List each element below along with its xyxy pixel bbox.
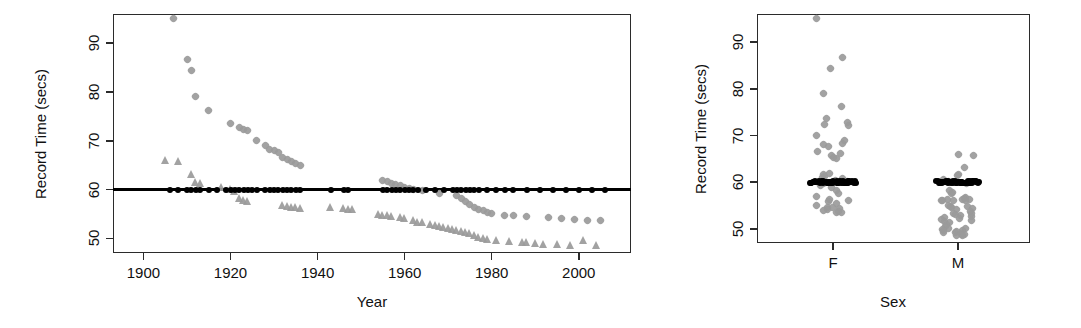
left-point-1-1 [174, 157, 182, 165]
left-point-1-28 [418, 218, 426, 226]
left-point-2-47 [484, 187, 490, 193]
left-point-2-27 [345, 187, 351, 193]
left-y-tick-label-60: 60 [85, 181, 102, 198]
right-x-tick-label-F: F [828, 254, 837, 271]
left-y-tick-label-80: 80 [85, 84, 102, 101]
left-point-0-39 [509, 211, 519, 221]
left-point-1-46 [522, 238, 530, 246]
left-point-2-6 [206, 187, 212, 193]
left-x-tick-label-1960: 1960 [388, 264, 421, 281]
left-point-1-43 [492, 236, 500, 244]
left-y-tick-label-70: 70 [85, 132, 102, 149]
left-y-tick-80 [106, 91, 113, 93]
left-point-0-45 [596, 216, 606, 226]
left-point-1-44 [505, 237, 513, 245]
right-point-F-3 [818, 88, 828, 98]
left-point-2-24 [297, 187, 303, 193]
left-point-0-2 [186, 66, 196, 76]
left-y-tick-50 [106, 238, 113, 240]
left-point-2-56 [589, 187, 595, 193]
left-point-0-38 [500, 211, 510, 221]
left-point-1-47 [531, 239, 539, 247]
figure-root: Record Time (secs) 5060708090 1900192019… [0, 0, 1081, 328]
left-point-0-3 [191, 92, 201, 102]
left-point-1-25 [400, 214, 408, 222]
right-point-M-1 [968, 150, 978, 160]
right-y-axis-title: Record Time (secs) [692, 64, 709, 194]
left-x-tick-label-1940: 1940 [301, 264, 334, 281]
left-point-2-38 [432, 187, 438, 193]
left-x-tick-1980 [491, 253, 493, 260]
left-point-2-0 [167, 187, 173, 193]
right-point-F-1 [837, 53, 847, 63]
left-point-0-41 [543, 213, 553, 223]
left-point-0-40 [522, 212, 532, 222]
left-point-1-2 [187, 170, 195, 178]
left-point-2-37 [423, 187, 429, 193]
right-y-tick-label-50: 50 [729, 221, 746, 238]
right-point-F-4 [836, 102, 846, 112]
left-y-tick-label-50: 50 [85, 230, 102, 247]
right-y-tick-70 [750, 135, 757, 137]
right-y-tick-60 [750, 181, 757, 183]
left-y-tick-label-90: 90 [85, 35, 102, 52]
left-plot-area [113, 14, 631, 253]
left-x-tick-label-2000: 2000 [562, 264, 595, 281]
left-point-2-46 [476, 187, 482, 193]
right-y-tick-label-90: 90 [729, 34, 746, 51]
left-point-2-49 [502, 187, 508, 193]
left-point-0-0 [169, 14, 179, 24]
left-x-axis-title: Year [357, 293, 387, 310]
left-point-1-15 [296, 204, 304, 212]
left-x-tick-label-1920: 1920 [214, 264, 247, 281]
left-point-1-4 [196, 179, 204, 187]
left-x-tick-label-1900: 1900 [127, 264, 160, 281]
left-point-1-23 [387, 212, 395, 220]
left-x-tick-2000 [578, 253, 580, 260]
left-point-2-7 [214, 187, 220, 193]
right-y-tick-50 [750, 228, 757, 230]
left-point-2-5 [197, 187, 203, 193]
left-point-0-4 [204, 106, 214, 116]
right-x-tick-M [957, 243, 959, 250]
left-point-2-15 [254, 187, 260, 193]
left-point-2-53 [550, 187, 556, 193]
left-y-tick-70 [106, 140, 113, 142]
right-plot-area [757, 14, 1030, 243]
left-point-2-48 [493, 187, 499, 193]
left-point-2-25 [328, 187, 334, 193]
left-point-1-10 [243, 197, 251, 205]
right-point-M-2 [959, 162, 969, 172]
left-point-1-16 [326, 203, 334, 211]
left-point-2-50 [510, 187, 516, 193]
right-point-F-8 [844, 120, 854, 130]
right-point-F-0 [811, 14, 821, 24]
left-point-0-5 [226, 118, 236, 128]
left-y-axis-title: Record Time (secs) [32, 69, 49, 199]
left-x-tick-1960 [404, 253, 406, 260]
left-point-2-51 [524, 187, 530, 193]
right-y-tick-label-80: 80 [729, 80, 746, 97]
left-y-tick-60 [106, 189, 113, 191]
right-x-tick-F [832, 243, 834, 250]
right-y-tick-90 [750, 41, 757, 43]
left-point-0-1 [182, 55, 192, 65]
left-x-tick-label-1980: 1980 [475, 264, 508, 281]
left-point-1-50 [566, 241, 574, 249]
left-point-1-51 [579, 236, 587, 244]
left-point-2-54 [563, 187, 569, 193]
left-point-2-39 [441, 187, 447, 193]
left-point-1-42 [483, 235, 491, 243]
right-point-F-9 [812, 131, 822, 141]
left-point-0-43 [569, 215, 579, 225]
left-x-tick-1900 [143, 253, 145, 260]
left-point-1-48 [539, 240, 547, 248]
left-point-1-49 [553, 240, 561, 248]
left-x-tick-1920 [230, 253, 232, 260]
left-point-1-19 [348, 205, 356, 213]
right-point-M-0 [954, 149, 964, 159]
left-point-0-42 [556, 214, 566, 224]
right-point-F-2 [826, 63, 836, 73]
right-point-F-31 [834, 189, 844, 199]
left-point-0-37 [487, 209, 497, 219]
